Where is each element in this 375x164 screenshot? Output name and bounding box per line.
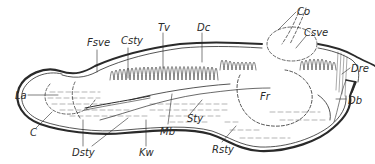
label-csty: Csty (121, 36, 143, 46)
label-dc: Dc (197, 23, 210, 33)
label-db: Db (348, 96, 362, 106)
label-dsty: Dsty (72, 148, 95, 158)
anatomical-diagram: Fsve Csty Tv Dc Co Csve Dre La Fr Db C M… (0, 0, 375, 164)
label-mb: Mb (160, 127, 175, 137)
label-tv: Tv (158, 23, 170, 33)
label-fr: Fr (260, 92, 270, 102)
label-c: C (30, 128, 37, 138)
villi-tubules (110, 59, 336, 80)
outer-wall (17, 70, 355, 152)
label-sty: Sty (187, 114, 203, 124)
label-csve: Csve (304, 28, 328, 38)
label-co: Co (297, 7, 310, 17)
frontal-lobe-outline (237, 70, 312, 126)
label-la: La (15, 91, 27, 101)
label-fsve: Fsve (87, 38, 110, 48)
diagram-drawing (0, 0, 375, 164)
label-kw: Kw (139, 148, 154, 158)
label-rsty: Rsty (212, 145, 234, 155)
leader-lines (28, 12, 350, 146)
label-dre: Dre (351, 64, 369, 74)
